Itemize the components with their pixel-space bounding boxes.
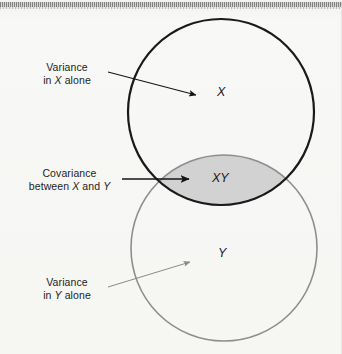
annotation-variance-x-line1: Variance [27, 61, 107, 74]
annotation-variance-y: Variance in Y alone [27, 276, 107, 301]
annotation-variance-x-line2: in X alone [27, 74, 107, 87]
label-set-x: X [217, 85, 225, 99]
label-set-y: Y [218, 246, 226, 260]
annotation-covariance-line1: Covariance [17, 167, 122, 180]
annotation-variance-y-line1: Variance [27, 276, 107, 289]
italic-y: Y [103, 180, 110, 192]
italic-y: Y [55, 289, 62, 301]
annotation-variance-y-line2: in Y alone [27, 289, 107, 302]
italic-x: X [55, 74, 62, 86]
annotation-covariance-line2: between X and Y [17, 180, 122, 193]
annotation-covariance-xy: Covariance between X and Y [17, 167, 122, 192]
arrow-variance-x [108, 72, 196, 95]
figure-page: Variance in X alone Covariance between X… [0, 0, 342, 354]
annotation-variance-x: Variance in X alone [27, 61, 107, 86]
label-set-xy: XY [212, 171, 229, 185]
arrow-variance-y [108, 262, 190, 287]
